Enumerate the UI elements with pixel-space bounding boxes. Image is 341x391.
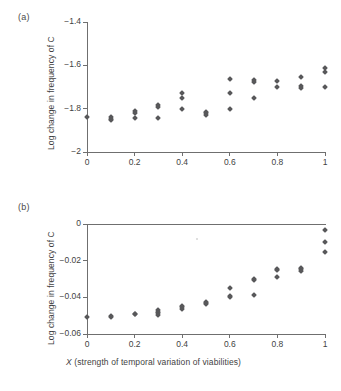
figure-container: (a) Log change in frequency of C −1.4−1.… bbox=[0, 0, 341, 391]
data-point bbox=[275, 274, 281, 280]
panel-b: (b) Log change in frequency of C 0−0.02−… bbox=[0, 190, 341, 391]
x-axis-tick-label: 1 bbox=[311, 339, 339, 349]
zero-reference-line bbox=[87, 224, 326, 225]
x-axis-tick-label: 0.8 bbox=[263, 157, 291, 167]
data-point bbox=[275, 78, 281, 84]
data-point bbox=[203, 301, 209, 307]
data-point bbox=[132, 312, 138, 318]
x-axis-tick-label: 0.6 bbox=[216, 339, 244, 349]
x-axis-tick bbox=[134, 152, 135, 156]
x-axis-tick-label: 0.8 bbox=[263, 339, 291, 349]
y-axis-tick-label: −0.06 bbox=[47, 328, 81, 338]
x-axis-tick-label: 0.4 bbox=[168, 339, 196, 349]
y-axis-tick-label: −1.4 bbox=[47, 16, 81, 26]
x-axis-tick bbox=[87, 334, 88, 338]
data-point bbox=[132, 116, 138, 122]
x-axis-tick-label: 0 bbox=[73, 339, 101, 349]
y-axis-tick-label: −1.6 bbox=[47, 59, 81, 69]
data-point bbox=[108, 314, 114, 320]
x-axis-tick bbox=[134, 334, 135, 338]
data-point bbox=[322, 69, 328, 75]
x-axis-line bbox=[87, 334, 326, 335]
x-axis-tick-label: 0 bbox=[73, 157, 101, 167]
data-point bbox=[275, 84, 281, 90]
y-axis-tick bbox=[83, 297, 87, 298]
data-point bbox=[203, 112, 209, 118]
y-axis-tick-label: −2 bbox=[47, 146, 81, 156]
x-axis-tick bbox=[325, 152, 326, 156]
data-point bbox=[251, 79, 257, 85]
data-point bbox=[227, 76, 233, 82]
data-point bbox=[227, 294, 233, 300]
data-point bbox=[84, 314, 90, 320]
data-point bbox=[298, 74, 304, 80]
x-axis-tick bbox=[229, 334, 230, 338]
y-axis-tick-label: −0.02 bbox=[47, 255, 81, 265]
y-axis-tick bbox=[83, 22, 87, 23]
x-axis-tick bbox=[325, 334, 326, 338]
panel-b-x-axis-label: X (strength of temporal variation of via… bbox=[66, 357, 241, 367]
data-point bbox=[227, 90, 233, 96]
y-axis-tick bbox=[83, 108, 87, 109]
y-axis-tick-label: −1.8 bbox=[47, 103, 81, 113]
x-axis-tick-label: 0.6 bbox=[216, 157, 244, 167]
x-axis-tick bbox=[229, 152, 230, 156]
y-axis-tick bbox=[83, 65, 87, 66]
data-point bbox=[227, 106, 233, 112]
data-point bbox=[179, 95, 185, 101]
data-point bbox=[298, 268, 304, 274]
data-point bbox=[322, 227, 328, 233]
y-axis-tick-label: −0.04 bbox=[47, 291, 81, 301]
y-axis-tick-label: 0 bbox=[47, 218, 81, 228]
x-axis-tick-label: 0.2 bbox=[121, 339, 149, 349]
data-point bbox=[227, 285, 233, 291]
data-point bbox=[251, 292, 257, 298]
y-axis-line bbox=[87, 22, 88, 153]
panel-a-plot-area: −1.4−1.6−1.8−200.20.40.60.81 bbox=[0, 0, 341, 190]
x-axis-tick bbox=[277, 152, 278, 156]
x-axis-tick-label: 0.4 bbox=[168, 157, 196, 167]
x-axis-line bbox=[87, 152, 326, 153]
data-point bbox=[251, 278, 257, 284]
data-point bbox=[322, 250, 328, 256]
data-point bbox=[179, 106, 185, 112]
x-axis-tick bbox=[87, 152, 88, 156]
x-axis-tick-label: 0.2 bbox=[121, 157, 149, 167]
data-point bbox=[156, 116, 162, 122]
x-axis-tick bbox=[182, 334, 183, 338]
x-axis-tick-label: 1 bbox=[311, 157, 339, 167]
scan-artifact-speck bbox=[196, 238, 198, 240]
data-point bbox=[156, 312, 162, 318]
x-axis-tick bbox=[182, 152, 183, 156]
x-axis-tick bbox=[277, 334, 278, 338]
x-label-rest: (strength of temporal variation of viabi… bbox=[72, 357, 241, 367]
data-point bbox=[84, 114, 90, 120]
y-axis-tick bbox=[83, 260, 87, 261]
panel-a: (a) Log change in frequency of C −1.4−1.… bbox=[0, 0, 341, 190]
data-point bbox=[322, 239, 328, 245]
data-point bbox=[251, 95, 257, 101]
data-point bbox=[322, 84, 328, 90]
